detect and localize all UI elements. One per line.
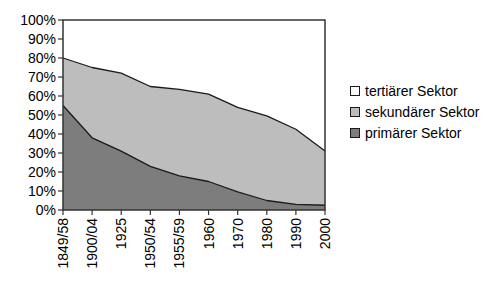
stacked-area-chart: 100%90%80%70%60%50%40%30%20%10%0% 1849/5… xyxy=(0,0,491,284)
y-axis-label: 80% xyxy=(0,51,56,65)
legend-label: tertiärer Sektor xyxy=(365,84,458,98)
x-axis-label: 1970 xyxy=(231,218,245,249)
y-axis-label: 30% xyxy=(0,146,56,160)
y-axis-label: 60% xyxy=(0,89,56,103)
y-axis-label: 70% xyxy=(0,70,56,84)
y-axis-label: 10% xyxy=(0,184,56,198)
legend-swatch-icon xyxy=(350,107,360,117)
plot-area xyxy=(63,20,325,210)
x-axis-label: 1980 xyxy=(260,218,274,249)
y-axis-label: 0% xyxy=(0,203,56,217)
x-axis-label: 1950/54 xyxy=(143,218,157,269)
x-axis-label: 1900/04 xyxy=(85,218,99,269)
y-axis-label: 20% xyxy=(0,165,56,179)
y-axis-label: 40% xyxy=(0,127,56,141)
legend-item: primärer Sektor xyxy=(350,126,479,140)
x-axis-label: 1960 xyxy=(202,218,216,249)
y-axis-label: 50% xyxy=(0,108,56,122)
y-axis-label: 90% xyxy=(0,32,56,46)
legend-label: primärer Sektor xyxy=(365,126,461,140)
legend-label: sekundärer Sektor xyxy=(365,105,479,119)
x-axis-label: 1955/59 xyxy=(172,218,186,269)
x-axis-label: 1849/58 xyxy=(56,218,70,269)
legend-item: sekundärer Sektor xyxy=(350,105,479,119)
legend-swatch-icon xyxy=(350,128,360,138)
x-axis-label: 2000 xyxy=(318,218,332,249)
legend: tertiärer Sektorsekundärer Sektorprimäre… xyxy=(350,84,479,147)
legend-item: tertiärer Sektor xyxy=(350,84,479,98)
y-axis-label: 100% xyxy=(0,13,56,27)
legend-swatch-icon xyxy=(350,86,360,96)
x-axis-label: 1990 xyxy=(289,218,303,249)
x-axis-label: 1925 xyxy=(114,218,128,249)
